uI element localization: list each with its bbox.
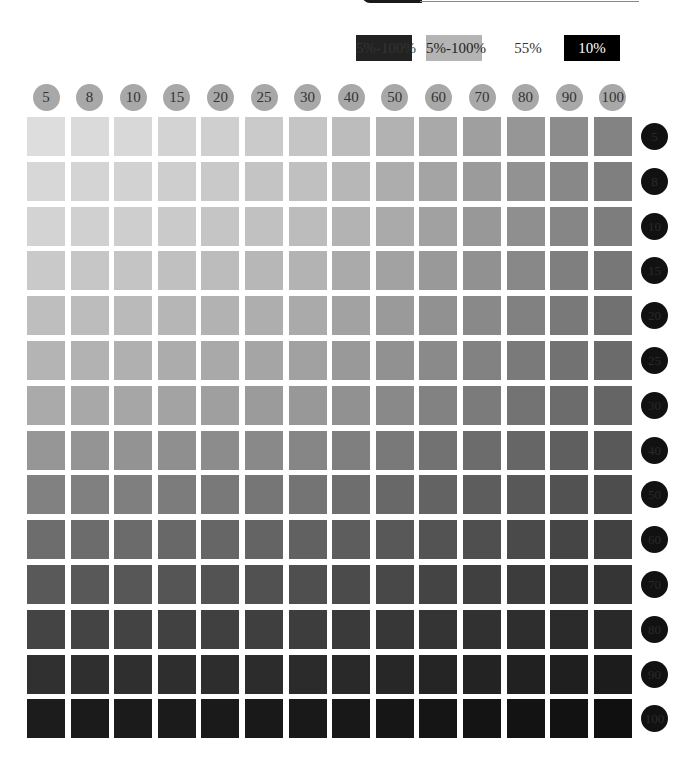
tint-swatch [507, 162, 545, 201]
tint-swatch [245, 251, 283, 290]
tint-swatch [463, 296, 501, 335]
tint-swatch [201, 117, 239, 156]
tint-swatch [201, 207, 239, 246]
tint-swatch [71, 162, 109, 201]
tint-swatch [550, 296, 588, 335]
tint-swatch [158, 162, 196, 201]
tint-swatch [594, 610, 632, 649]
tint-swatch [71, 386, 109, 425]
tint-swatch [114, 207, 152, 246]
tint-swatch [71, 699, 109, 738]
row-label: 60 [641, 526, 668, 553]
tint-swatch [376, 296, 414, 335]
tint-swatch [419, 475, 457, 514]
tint-swatch [463, 655, 501, 694]
tint-swatch [463, 207, 501, 246]
tint-swatch [245, 162, 283, 201]
tint-swatch [114, 162, 152, 201]
top-tab [362, 0, 422, 3]
tint-swatch [27, 699, 65, 738]
tint-swatch [114, 117, 152, 156]
tint-swatch [289, 296, 327, 335]
tint-swatch [507, 117, 545, 156]
tint-swatch [114, 431, 152, 470]
row-label: 100 [641, 705, 668, 732]
tint-swatch [71, 207, 109, 246]
tint-swatch [594, 117, 632, 156]
tint-swatch [245, 341, 283, 380]
tint-swatch [332, 207, 370, 246]
row-label: 30 [641, 392, 668, 419]
column-label: 30 [294, 84, 321, 111]
tint-swatch [376, 341, 414, 380]
tint-swatch [27, 296, 65, 335]
tint-swatch [550, 699, 588, 738]
tint-swatch [507, 296, 545, 335]
tint-swatch [158, 207, 196, 246]
tint-swatch [332, 475, 370, 514]
tint-swatch [158, 431, 196, 470]
tint-swatch [463, 431, 501, 470]
column-label: 60 [425, 84, 452, 111]
tint-swatch [507, 251, 545, 290]
legend-gray-range: 5%-100% [426, 35, 482, 61]
tint-swatch [594, 386, 632, 425]
tint-swatch [158, 610, 196, 649]
tint-swatch [507, 699, 545, 738]
tint-swatch [463, 117, 501, 156]
tint-swatch [332, 251, 370, 290]
tint-swatch [332, 386, 370, 425]
tint-swatch [550, 610, 588, 649]
tint-swatch [158, 475, 196, 514]
tint-swatch [594, 341, 632, 380]
tint-swatch [289, 162, 327, 201]
legend-black: 10% [564, 35, 620, 61]
tint-swatch [507, 565, 545, 604]
tint-swatch [594, 655, 632, 694]
tint-swatch [27, 386, 65, 425]
tint-swatch [507, 655, 545, 694]
tint-swatch [419, 296, 457, 335]
tint-swatch [376, 699, 414, 738]
tint-swatch [289, 610, 327, 649]
tint-swatch [594, 520, 632, 559]
tint-swatch [463, 699, 501, 738]
tint-swatch [245, 610, 283, 649]
tint-swatch [158, 386, 196, 425]
tint-swatch [27, 520, 65, 559]
tint-swatch [158, 341, 196, 380]
tint-swatch [27, 475, 65, 514]
tint-swatch [550, 565, 588, 604]
tint-swatch [376, 475, 414, 514]
tint-swatch [245, 475, 283, 514]
tint-swatch [114, 565, 152, 604]
tint-swatch [594, 296, 632, 335]
tint-swatch [289, 251, 327, 290]
column-label: 80 [512, 84, 539, 111]
top-divider [420, 1, 639, 2]
tint-swatch [114, 520, 152, 559]
tint-swatch [463, 386, 501, 425]
tint-swatch [376, 207, 414, 246]
tint-swatch [550, 386, 588, 425]
tint-swatch [201, 251, 239, 290]
tint-swatch [507, 431, 545, 470]
column-label: 15 [163, 84, 190, 111]
tint-swatch [201, 699, 239, 738]
tint-swatch [376, 386, 414, 425]
tint-swatch [71, 251, 109, 290]
tint-swatch [463, 475, 501, 514]
column-label: 90 [556, 84, 583, 111]
tint-swatch [27, 162, 65, 201]
tint-swatch [419, 655, 457, 694]
tint-swatch [27, 341, 65, 380]
row-label: 70 [641, 571, 668, 598]
tint-swatch [376, 162, 414, 201]
tint-swatch [550, 251, 588, 290]
tint-swatch [507, 341, 545, 380]
tint-swatch [158, 655, 196, 694]
row-label: 8 [641, 168, 668, 195]
tint-swatch [594, 207, 632, 246]
row-label: 5 [641, 123, 668, 150]
tint-swatch [550, 162, 588, 201]
